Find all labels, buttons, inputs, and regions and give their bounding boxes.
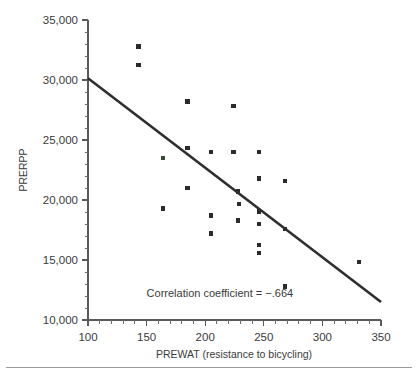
x-tick-label: 100 bbox=[78, 331, 97, 343]
scatter-plot-figure: 10,00015,00020,00025,00030,00035,000 100… bbox=[0, 0, 418, 379]
y-axis-ticks bbox=[82, 20, 88, 320]
data-point bbox=[161, 156, 165, 160]
x-tick-label: 250 bbox=[254, 331, 273, 343]
data-point bbox=[231, 104, 235, 108]
x-axis-ticks bbox=[88, 320, 381, 326]
data-point bbox=[209, 213, 213, 217]
x-tick-label: 200 bbox=[196, 331, 215, 343]
data-point bbox=[237, 202, 241, 206]
y-tick-label: 30,000 bbox=[43, 74, 78, 86]
data-point bbox=[257, 251, 261, 255]
data-point bbox=[136, 44, 140, 48]
y-tick-label: 20,000 bbox=[43, 194, 78, 206]
x-tick-label: 350 bbox=[371, 331, 390, 343]
y-axis: 10,00015,00020,00025,00030,00035,000 bbox=[43, 14, 88, 326]
data-point bbox=[185, 186, 189, 190]
y-axis-title: PRERPP bbox=[17, 148, 29, 191]
data-point bbox=[185, 99, 189, 103]
x-axis-tick-labels: 100150200250300350 bbox=[78, 331, 390, 343]
data-point bbox=[236, 218, 240, 222]
data-point bbox=[283, 179, 287, 183]
x-axis: 100150200250300350 bbox=[78, 320, 390, 343]
y-axis-tick-labels: 10,00015,00020,00025,00030,00035,000 bbox=[43, 14, 78, 326]
data-point bbox=[209, 231, 213, 235]
data-point bbox=[257, 176, 261, 180]
regression-line bbox=[88, 78, 381, 302]
data-point bbox=[136, 63, 140, 67]
data-point bbox=[185, 146, 189, 150]
x-axis-title: PREWAT (resistance to bicycling) bbox=[156, 348, 312, 360]
y-tick-label: 25,000 bbox=[43, 134, 78, 146]
x-tick-label: 150 bbox=[137, 331, 156, 343]
data-point-group bbox=[136, 44, 361, 288]
y-tick-label: 15,000 bbox=[43, 254, 78, 266]
data-point bbox=[257, 243, 261, 247]
x-tick-label: 300 bbox=[313, 331, 332, 343]
data-point bbox=[209, 150, 213, 154]
chart-canvas: 10,00015,00020,00025,00030,00035,000 100… bbox=[0, 0, 418, 379]
data-point bbox=[257, 150, 261, 154]
data-point bbox=[257, 222, 261, 226]
y-tick-label: 10,000 bbox=[43, 314, 78, 326]
correlation-annotation: Correlation coefficient = −.664 bbox=[147, 287, 294, 299]
data-point bbox=[161, 206, 165, 210]
y-tick-label: 35,000 bbox=[43, 14, 78, 26]
data-point bbox=[231, 150, 235, 154]
data-point bbox=[357, 260, 361, 264]
